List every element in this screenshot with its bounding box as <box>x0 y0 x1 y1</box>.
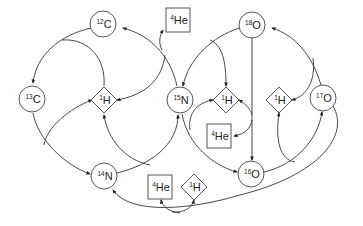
element-symbol: H <box>103 94 111 106</box>
edge-emit-he4-middle <box>234 120 252 136</box>
element-symbol: N <box>105 170 113 182</box>
element-symbol: H <box>278 94 286 106</box>
edge-n15-c12 <box>123 28 177 86</box>
node-n14: 14N <box>91 163 117 189</box>
node-c13: 13C <box>19 86 45 112</box>
node-o18: 18O <box>239 12 265 38</box>
node-he4_middle: 4He <box>207 124 231 148</box>
element-symbol: O <box>252 19 261 31</box>
node-o17: 17O <box>310 85 336 111</box>
edge-h-to-c12c13 <box>62 40 104 86</box>
edge-c13-n14 <box>33 113 90 174</box>
edge-o17-n14 <box>113 106 338 208</box>
edge-h-to-c13n14 <box>44 100 92 145</box>
edge-h-bottom-in <box>172 200 194 212</box>
element-symbol: C <box>104 18 112 30</box>
node-h1_right: 1H <box>266 87 292 113</box>
node-o16: 16O <box>238 161 264 187</box>
element-symbol: He <box>215 130 229 142</box>
node-h1_center: 1H <box>213 87 239 113</box>
element-symbol: H <box>225 94 233 106</box>
node-c12: 12C <box>90 11 116 37</box>
element-symbol: O <box>323 92 332 104</box>
edge-o17-o18 <box>272 28 321 85</box>
edge-h-to-n14n15 <box>104 115 150 165</box>
edge-emit-he4-bottom <box>161 200 180 213</box>
edge-h-to-o16o17 <box>278 113 295 162</box>
element-symbol: He <box>174 14 188 26</box>
edge-h-to-o18o16 <box>239 100 252 115</box>
element-symbol: C <box>33 93 41 105</box>
edge-h-to-o18n15 <box>210 40 226 86</box>
node-h1_left: 1H <box>91 87 117 113</box>
node-he4_top: 4He <box>166 8 190 32</box>
node-he4_bottom: 4He <box>148 175 172 199</box>
edge-emit-he4-top <box>160 30 163 50</box>
right-cycle-edges <box>113 28 338 213</box>
isotope-label: 4He <box>170 14 188 26</box>
element-symbol: He <box>156 181 170 193</box>
cno-cycle-diagram: 12C13C14N15N16O17O18O1H1H1H1H4He4He4He <box>0 0 363 226</box>
element-symbol: O <box>251 168 260 180</box>
edge-h-to-n15c12 <box>117 55 165 100</box>
node-h1_bottom: 1H <box>181 174 207 200</box>
element-symbol: N <box>181 94 189 106</box>
node-n15: 15N <box>167 87 193 113</box>
isotope-label: 4He <box>152 181 170 193</box>
edge-c12-c13 <box>33 28 91 83</box>
edge-o18-n15 <box>183 28 240 86</box>
element-symbol: H <box>193 181 201 193</box>
isotope-label: 4He <box>211 130 229 142</box>
